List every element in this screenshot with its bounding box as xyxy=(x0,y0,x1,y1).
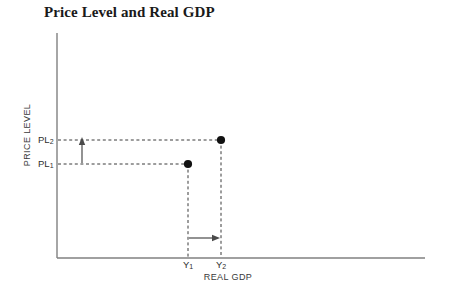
y-axis-title: PRICE LEVEL xyxy=(22,104,32,166)
y-tick-label-pl2-subscript: 2 xyxy=(50,138,54,145)
chart-plot-area xyxy=(0,0,452,295)
annotation-arrows xyxy=(79,137,220,241)
axis-lines xyxy=(57,33,425,258)
data-points xyxy=(184,136,225,168)
price-level-arrowhead xyxy=(79,137,85,145)
chart-figure: Price Level and Real GDP PRICE LEVEL REA… xyxy=(0,0,452,295)
x-tick-label-y1: Y1 xyxy=(183,259,193,270)
y-tick-label-pl1-text: PL xyxy=(38,158,50,169)
y-tick-label-pl2-text: PL xyxy=(38,134,50,145)
data-point-initial xyxy=(184,160,192,168)
y-tick-label-pl1: PL1 xyxy=(38,158,54,169)
y-tick-label-pl2: PL2 xyxy=(38,134,54,145)
data-point-new xyxy=(217,136,225,144)
x-tick-label-y1-subscript: 1 xyxy=(189,263,193,270)
x-tick-label-y2: Y2 xyxy=(216,259,226,270)
real-gdp-arrowhead xyxy=(212,235,220,241)
x-axis-title: REAL GDP xyxy=(204,272,252,282)
x-tick-label-y2-subscript: 2 xyxy=(222,263,226,270)
y-tick-label-pl1-subscript: 1 xyxy=(50,162,54,169)
